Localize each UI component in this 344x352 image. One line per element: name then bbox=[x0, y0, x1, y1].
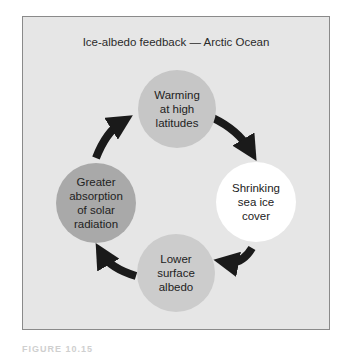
node-greater-line-2: absorption bbox=[69, 189, 123, 203]
node-greater-line-4: radiation bbox=[69, 217, 123, 231]
arrow-warming-to-shrinking bbox=[213, 118, 250, 150]
node-greater-line-1: Greater bbox=[69, 175, 123, 189]
node-lower-line-2: surface bbox=[157, 266, 195, 280]
node-warming-line-2: at high bbox=[154, 102, 200, 116]
arrow-lower-to-greater bbox=[102, 254, 136, 276]
node-warming-line-3: latitudes bbox=[154, 116, 200, 130]
node-greater: Greater absorption of solar radiation bbox=[56, 163, 136, 243]
node-warming: Warming at high latitudes bbox=[138, 70, 216, 148]
node-shrinking-line-3: cover bbox=[232, 209, 280, 223]
figure-caption: FIGURE 10.15 bbox=[22, 344, 93, 352]
node-lower: Lower surface albedo bbox=[137, 234, 215, 312]
node-shrinking-line-1: Shrinking bbox=[232, 181, 280, 195]
node-shrinking: Shrinking sea ice cover bbox=[216, 162, 296, 242]
node-lower-line-1: Lower bbox=[157, 252, 195, 266]
node-shrinking-line-2: sea ice bbox=[232, 195, 280, 209]
node-warming-line-1: Warming bbox=[154, 88, 200, 102]
node-lower-line-3: albedo bbox=[157, 280, 195, 294]
arrow-greater-to-warming bbox=[96, 122, 122, 158]
node-greater-line-3: of solar bbox=[69, 203, 123, 217]
arrow-shrinking-to-lower bbox=[226, 248, 252, 262]
